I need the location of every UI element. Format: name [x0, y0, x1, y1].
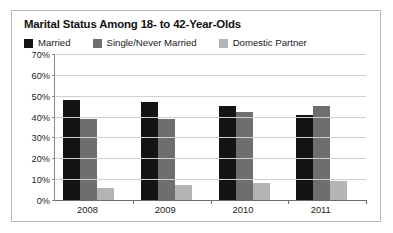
bar	[97, 188, 114, 201]
bar	[236, 112, 253, 200]
y-tick-mark	[52, 158, 55, 159]
legend-swatch-icon	[93, 39, 102, 48]
x-tick-label: 2010	[233, 204, 254, 215]
legend-label: Married	[38, 38, 71, 48]
legend-item: Single/Never Married	[93, 38, 197, 48]
y-tick-label: 40%	[32, 113, 50, 123]
legend-label: Single/Never Married	[107, 38, 197, 48]
y-tick-mark	[52, 117, 55, 118]
y-tick-label: 60%	[32, 71, 50, 81]
chart-title: Marital Status Among 18- to 42-Year-Olds	[24, 18, 241, 30]
bar	[158, 119, 175, 200]
y-tick-mark	[52, 179, 55, 180]
legend-item: Domestic Partner	[219, 38, 307, 48]
bar	[330, 181, 347, 200]
bar	[219, 106, 236, 200]
gridline	[55, 75, 366, 76]
x-axis: 2008200920102011	[54, 204, 366, 220]
y-tick-label: 10%	[32, 175, 50, 185]
gridline	[55, 137, 366, 138]
chart-container: Marital Status Among 18- to 42-Year-Olds…	[11, 10, 381, 222]
y-tick-label: 30%	[32, 133, 50, 143]
chart-legend: MarriedSingle/Never MarriedDomestic Part…	[24, 37, 329, 49]
x-tick-label: 2011	[311, 204, 331, 215]
bar	[80, 119, 97, 200]
gridline	[55, 158, 366, 159]
x-tick-mark	[366, 200, 367, 204]
x-tick-label: 2008	[77, 204, 98, 215]
y-tick-label: 50%	[32, 92, 50, 102]
legend-swatch-icon	[219, 39, 228, 48]
plot-wrapper: 0%10%20%30%40%50%60%70% 2008200920102011	[12, 55, 380, 221]
legend-label: Domestic Partner	[233, 38, 307, 48]
legend-item: Married	[24, 38, 71, 48]
gridline	[55, 117, 366, 118]
bar	[313, 106, 330, 200]
y-tick-mark	[52, 75, 55, 76]
bar	[175, 185, 192, 200]
y-tick-mark	[52, 137, 55, 138]
bar	[253, 183, 270, 200]
bar	[63, 100, 80, 200]
gridline	[55, 179, 366, 180]
bar	[296, 115, 313, 201]
y-tick-label: 70%	[32, 50, 50, 60]
legend-swatch-icon	[24, 39, 33, 48]
gridline	[55, 54, 366, 55]
y-tick-label: 0%	[37, 196, 50, 206]
gridline	[55, 96, 366, 97]
y-axis: 0%10%20%30%40%50%60%70%	[12, 55, 54, 201]
plot-area	[54, 55, 366, 201]
y-tick-mark	[52, 96, 55, 97]
y-tick-mark	[52, 200, 55, 201]
x-tick-label: 2009	[155, 204, 176, 215]
y-tick-mark	[52, 54, 55, 55]
y-tick-label: 20%	[32, 154, 50, 164]
